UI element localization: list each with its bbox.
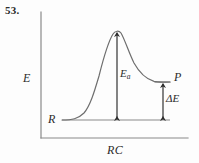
delta-energy-label: ΔE: [166, 93, 179, 104]
energy-profile-figure: 53. E RC R P Ea ΔE: [0, 0, 199, 163]
activation-energy-symbol: E: [120, 67, 127, 79]
x-axis-label: RC: [107, 144, 123, 156]
reactant-label: R: [48, 113, 55, 125]
y-axis-label: E: [23, 72, 30, 84]
activation-energy-label: Ea: [120, 68, 130, 80]
product-label: P: [174, 71, 181, 83]
energy-profile-curve: [62, 31, 170, 120]
problem-number-label: 53.: [5, 5, 19, 16]
activation-energy-subscript: a: [127, 72, 131, 81]
